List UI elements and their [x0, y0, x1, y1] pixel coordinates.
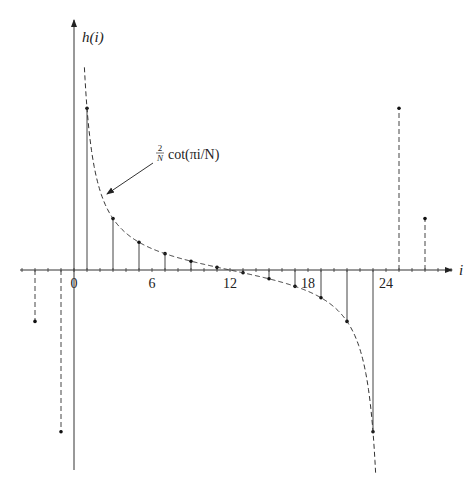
x-tick-label-24: 24: [379, 276, 393, 291]
x-tick-label-6: 6: [149, 276, 156, 291]
y-axis-label: h(i): [82, 29, 104, 46]
stem-plot: 2 N cot(πi/N) h(i) i 0 6 12 18 24: [0, 0, 473, 482]
annotation-arrow: [107, 163, 153, 194]
annotation-text: cot(πi/N): [168, 147, 220, 163]
x-tick-label-12: 12: [223, 276, 237, 291]
stem-marker: [59, 430, 63, 434]
x-tick-label-18: 18: [301, 276, 315, 291]
annotation: 2 N cot(πi/N): [107, 143, 220, 194]
axes: [20, 20, 452, 470]
annotation-frac-den: N: [156, 153, 164, 163]
x-axis-label: i: [459, 262, 463, 278]
annotation-frac-num: 2: [158, 143, 163, 153]
x-tick-label-0: 0: [71, 276, 78, 291]
stem-marker: [423, 217, 427, 221]
stem-marker: [189, 259, 193, 263]
stem-marker: [397, 106, 401, 110]
stem-marker: [33, 320, 37, 324]
stem-marker: [267, 277, 271, 281]
